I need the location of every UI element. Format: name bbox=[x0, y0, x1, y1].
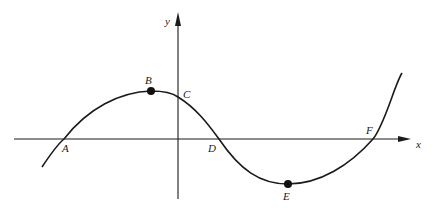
y-axis bbox=[175, 12, 181, 199]
y-axis-label: y bbox=[164, 15, 170, 27]
point-b-label: B bbox=[145, 74, 152, 86]
x-axis-label: x bbox=[415, 138, 421, 150]
point-e-label: E bbox=[282, 190, 290, 202]
point-e-marker bbox=[284, 180, 292, 188]
y-axis-arrow-icon bbox=[175, 12, 181, 26]
point-c-label: C bbox=[183, 88, 191, 100]
point-d-label: D bbox=[207, 142, 216, 154]
point-a-label: A bbox=[61, 142, 69, 154]
function-graph: y x A B C D E F bbox=[0, 0, 435, 214]
x-axis-arrow-icon bbox=[398, 136, 411, 142]
point-f-label: F bbox=[365, 124, 373, 136]
function-curve bbox=[42, 73, 402, 184]
point-b-marker bbox=[147, 87, 155, 95]
